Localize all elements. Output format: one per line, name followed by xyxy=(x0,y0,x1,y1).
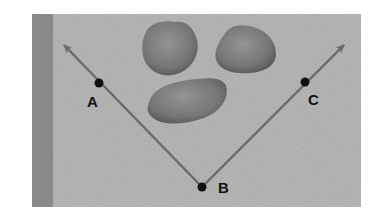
left-strip xyxy=(32,14,53,207)
point-a xyxy=(95,79,104,88)
label-c: C xyxy=(308,91,319,108)
angle-diagram: A C B xyxy=(0,0,384,215)
point-b xyxy=(198,183,207,192)
label-b: B xyxy=(218,179,229,196)
point-c xyxy=(301,78,310,87)
label-a: A xyxy=(87,93,98,110)
